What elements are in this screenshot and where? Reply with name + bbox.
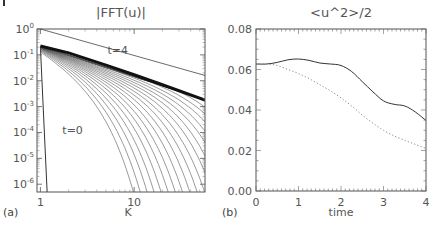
panel-a-y-tick-labels: 10010-110-210-310-410-510-6 (13, 22, 35, 191)
panel-b-energy: <u^2>/2 0.000.020.040.060.08 01234 time … (222, 5, 430, 219)
x-tick-label: 4 (423, 196, 430, 209)
figure: |FFT(u)| 10010-110-210-310-410-510-6 110… (0, 0, 436, 232)
corner-mark (3, 0, 5, 6)
y-tick-label: 10-1 (13, 48, 34, 62)
panel-b-x-axis-label: time (329, 206, 354, 219)
x-tick-label: 1 (295, 196, 302, 209)
energy-curve-solid (256, 59, 426, 121)
annotation-t4: t=4 (108, 44, 129, 57)
panel-a-x-axis-label: K (124, 206, 132, 219)
panel-b-title: <u^2>/2 (310, 5, 372, 20)
y-tick-label: 0.04 (228, 104, 253, 117)
y-tick-label: 10-6 (13, 177, 35, 191)
energy-curve-dotted (256, 64, 426, 149)
curve-intermediate (40, 47, 205, 156)
x-tick-label: 1 (37, 196, 44, 209)
curve-intermediate (40, 49, 173, 211)
x-tick-label: 3 (380, 196, 387, 209)
panel-b-frame (256, 29, 426, 191)
y-tick-label: 0.02 (228, 145, 253, 158)
y-tick-label: 10-5 (13, 151, 34, 165)
x-tick-label: 0 (253, 196, 260, 209)
energy-curves (256, 59, 426, 149)
curve-t0 (40, 47, 47, 192)
annotation-t0: t=0 (62, 124, 83, 137)
y-tick-label: 10-3 (13, 100, 34, 114)
y-tick-label: 10-2 (13, 74, 34, 88)
y-tick-label: 10-4 (13, 125, 35, 139)
y-tick-label: 100 (16, 22, 34, 36)
panel-a-fft-spectrum: |FFT(u)| 10010-110-210-310-410-510-6 110… (3, 5, 205, 219)
panel-b-axis-ticks (256, 29, 426, 191)
y-tick-label: 0.06 (228, 64, 253, 77)
panel-b-label: (b) (222, 206, 238, 219)
panel-a-label: (a) (3, 206, 18, 219)
y-tick-label: 0.00 (228, 185, 253, 198)
panel-a-title: |FFT(u)| (96, 5, 146, 20)
y-tick-label: 0.08 (228, 23, 253, 36)
panel-b-y-tick-labels: 0.000.020.040.060.08 (228, 23, 253, 198)
